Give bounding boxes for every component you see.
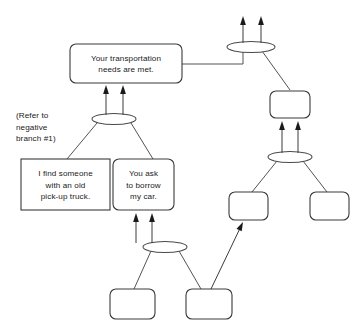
and-connector-and-goal	[92, 114, 136, 125]
arrow-head	[133, 213, 139, 222]
arrow-bottomright-to-midleft	[211, 222, 243, 289]
arrow-and-rightmid-up-left	[279, 121, 285, 153]
arrow-head	[279, 121, 285, 130]
and-connector-and-top-right	[227, 42, 275, 53]
connector-line-rightmid-and-to-left	[252, 161, 277, 192]
entity-truck[interactable]: I find someonewith an oldpick-up truck.	[21, 159, 110, 210]
entity-label-line: I find someone	[38, 169, 93, 178]
entity-boxes-layer: Your transportationneeds are met.I find …	[21, 44, 349, 319]
arrow-and-topright-up-right	[258, 16, 264, 43]
entity-box-blank[interactable]	[110, 289, 155, 319]
connector-line-and-bottom-to-left	[134, 251, 151, 289]
entity-label-line: Your transportation	[91, 54, 161, 63]
entity-box-filled[interactable]	[70, 44, 182, 83]
and-connector-and-right-mid	[268, 152, 312, 163]
entity-label-line: You ask	[129, 169, 159, 178]
entity-label-line: needs are met.	[98, 65, 153, 74]
future-reality-tree-diagram: Your transportationneeds are met.I find …	[0, 0, 364, 325]
entity-blank-bottom-right[interactable]	[186, 289, 232, 319]
and-connector-and-bottom	[143, 242, 187, 253]
entity-label: I find someonewith an oldpick-up truck.	[38, 169, 93, 201]
entity-label-line: to borrow	[126, 181, 161, 190]
entity-box-blank[interactable]	[229, 192, 268, 220]
entity-label-line: pick-up truck.	[41, 192, 91, 201]
entity-box-blank[interactable]	[310, 192, 349, 220]
arrow-head	[120, 85, 126, 94]
entity-label-line: my car.	[130, 192, 157, 201]
connector-line-rightmid-and-to-right	[303, 161, 327, 192]
entity-label-line: with an old	[45, 181, 86, 190]
arrow-and-goal-to-goal-left	[103, 85, 109, 115]
diagram-canvas: Your transportationneeds are met.I find …	[0, 0, 364, 325]
note-line: branch #1)	[16, 134, 56, 143]
connector-line-and-goal-to-borrow	[131, 123, 153, 159]
note-line: (Refer to	[16, 111, 49, 120]
arrow-head	[258, 16, 264, 25]
entity-box-blank[interactable]	[270, 91, 310, 118]
entity-blank-right-mid-left[interactable]	[229, 192, 268, 220]
arrow-and-rightmid-up-right	[295, 121, 301, 153]
arrow-head	[237, 222, 243, 231]
arrow-shaft	[211, 229, 240, 289]
entity-goal[interactable]: Your transportationneeds are met.	[70, 44, 182, 83]
arrow-and-borrow-right	[149, 213, 155, 243]
connector-line-and-goal-to-truck	[67, 123, 97, 159]
arrow-head	[149, 213, 155, 222]
note-line: negative	[16, 123, 48, 132]
entity-label: You askto borrowmy car.	[126, 169, 161, 201]
arrow-head	[295, 121, 301, 130]
arrow-and-borrow-left	[133, 213, 139, 243]
entity-blank-right-mid-right[interactable]	[310, 192, 349, 220]
connector-line-goal-to-topright-and	[182, 50, 243, 64]
entity-borrow-car[interactable]: You askto borrowmy car.	[113, 159, 174, 210]
entity-blank-bottom-left[interactable]	[110, 289, 155, 319]
arrow-and-goal-to-goal-right	[120, 85, 126, 115]
connector-line-topright-and-to-blank	[262, 51, 290, 90]
arrow-head	[240, 16, 246, 25]
entity-blank-right-upper[interactable]	[270, 91, 310, 118]
entity-box-blank[interactable]	[186, 289, 232, 319]
negative-branch-note: (Refer tonegativebranch #1)	[16, 111, 56, 143]
arrow-head	[103, 85, 109, 94]
arrow-and-topright-up-left	[240, 16, 246, 43]
connector-line-and-bottom-to-right	[179, 251, 201, 289]
annotation-layer: (Refer tonegativebranch #1)	[16, 111, 56, 143]
